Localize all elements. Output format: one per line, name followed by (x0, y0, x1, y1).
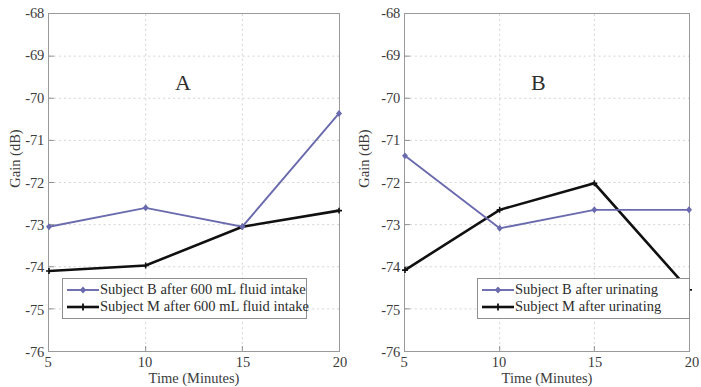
legend-item: Subject B after 600 mL fluid intake (66, 281, 303, 298)
legend-swatch-subject-m (66, 300, 100, 314)
legend-item: Subject M after 600 mL fluid intake (66, 298, 303, 315)
y-axis-title: Gain (dB) (356, 104, 373, 214)
x-tick-label: 15 (236, 354, 251, 371)
legend-a: Subject B after 600 mL fluid intake Subj… (62, 278, 307, 319)
y-tick-label: -72 (25, 174, 44, 191)
y-tick-label: -68 (381, 5, 400, 22)
grid-horizontal (405, 56, 689, 309)
y-tick-label: -69 (25, 47, 44, 64)
legend-label: Subject M after urinating (515, 299, 661, 314)
figure-container: -68 -69 -70 -71 -72 -73 -74 -75 -76 Gain… (0, 0, 701, 387)
x-tick-label: 5 (44, 354, 51, 371)
grid-horizontal (49, 56, 339, 309)
y-tick-label: -74 (381, 259, 400, 276)
y-tick-label: -71 (381, 132, 400, 149)
y-tick-label: -72 (381, 174, 400, 191)
panel-letter-a: A (175, 70, 191, 96)
series-markers-subject-b (46, 110, 342, 230)
y-tick-label: -75 (381, 301, 400, 318)
x-axis-title: Time (Minutes) (48, 370, 340, 387)
legend-swatch-subject-b (481, 283, 515, 297)
y-tick-label: -68 (25, 5, 44, 22)
legend-label: Subject B after 600 mL fluid intake (100, 282, 306, 297)
y-tick-label: -75 (25, 301, 44, 318)
y-axis-title: Gain (dB) (7, 104, 24, 214)
x-tick-marks (500, 346, 595, 351)
x-tick-label: 10 (138, 354, 153, 371)
legend-b: Subject B after urinating Subject M afte… (477, 278, 690, 319)
legend-label: Subject M after 600 mL fluid intake (100, 299, 309, 314)
y-tick-label: -69 (381, 47, 400, 64)
series-line-subject-m (405, 183, 689, 290)
y-tick-label: -76 (25, 344, 44, 361)
y-tick-label: -70 (381, 89, 400, 106)
legend-item: Subject B after urinating (481, 281, 686, 298)
x-tick-label: 20 (333, 354, 348, 371)
series-line-subject-m (49, 211, 339, 271)
y-tick-label: -76 (381, 344, 400, 361)
panel-letter-b: B (531, 70, 546, 96)
legend-swatch-subject-m (481, 300, 515, 314)
series-line-subject-b (405, 156, 689, 228)
plot-area-b: B Subject B after urinating (404, 13, 690, 352)
x-tick-label: 15 (588, 354, 603, 371)
x-tick-label: 5 (400, 354, 407, 371)
chart-panel-a: -68 -69 -70 -71 -72 -73 -74 -75 -76 Gain… (0, 0, 350, 387)
x-axis-title: Time (Minutes) (404, 370, 690, 387)
y-tick-label: -73 (381, 216, 400, 233)
y-tick-label: -74 (25, 259, 44, 276)
series-line-subject-b (49, 113, 339, 226)
legend-item: Subject M after urinating (481, 298, 686, 315)
y-tick-label: -71 (25, 132, 44, 149)
x-tick-label: 10 (492, 354, 507, 371)
legend-swatch-subject-b (66, 283, 100, 297)
chart-panel-b: -68 -69 -70 -71 -72 -73 -74 -75 -76 Gain… (351, 0, 701, 387)
x-tick-label: 20 (685, 354, 700, 371)
legend-label: Subject B after urinating (515, 282, 658, 297)
x-tick-marks (146, 346, 243, 351)
y-tick-label: -73 (25, 216, 44, 233)
y-tick-label: -70 (25, 89, 44, 106)
plot-area-a: A Subject B after 600 mL fluid intake (48, 13, 340, 352)
